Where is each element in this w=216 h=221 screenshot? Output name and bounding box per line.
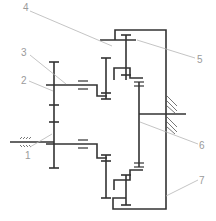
sun-gear-1 [49, 62, 59, 168]
labels: 1 2 3 4 5 6 7 [21, 2, 205, 186]
label-2: 2 [21, 75, 27, 86]
output-gear [134, 82, 144, 167]
carrier-arm-upper [46, 81, 107, 96]
label-7: 7 [199, 175, 205, 186]
ground-hatch [167, 96, 177, 134]
planet-gear-lower [101, 155, 111, 198]
carrier-arm-lower [46, 140, 107, 158]
label-4: 4 [23, 2, 29, 13]
planet-gear-upper [101, 58, 111, 99]
label-1: 1 [25, 150, 31, 161]
label-6: 6 [199, 140, 205, 151]
label-3: 3 [21, 47, 27, 58]
label-5: 5 [197, 54, 203, 65]
gear-train-diagram: 1 2 3 4 5 6 7 [0, 0, 216, 221]
diagram-svg: 1 2 3 4 5 6 7 [0, 0, 216, 221]
ring-gear-housing [100, 30, 166, 209]
